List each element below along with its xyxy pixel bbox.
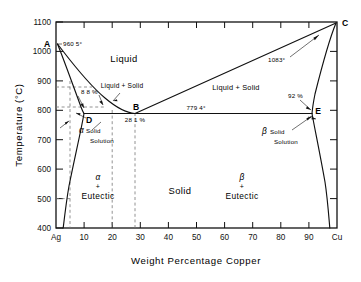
- phase-diagram-svg: 1100 1000 900 800 700 600 500 400 Ag 10 …: [0, 0, 361, 282]
- x-tick-80: 80: [276, 233, 286, 242]
- y-tick-500: 500: [37, 195, 51, 204]
- phase-diagram-figure: 1100 1000 900 800 700 600 500 400 Ag 10 …: [0, 0, 361, 282]
- leader-arrows: [58, 35, 320, 130]
- y-tick-600: 600: [37, 165, 51, 174]
- x-tick-70: 70: [248, 233, 258, 242]
- x-tick-30: 30: [136, 233, 146, 242]
- liquidus-cu-curve: [135, 23, 336, 114]
- point-label-d: D: [86, 115, 92, 125]
- ann-temp-cu: 1083°: [268, 56, 286, 63]
- solidus-ag-curve: [58, 44, 85, 114]
- arrowhead-E-mark: [312, 117, 316, 119]
- beta-solid-solution-label: β Solid Solution: [261, 126, 298, 145]
- x-tick-60: 60: [220, 233, 230, 242]
- region-label-liquid-solid-right: Liquid + Solid: [212, 83, 259, 92]
- dashed-guides: [56, 81, 135, 228]
- arrowhead-beta-ss: [306, 116, 312, 120]
- y-tick-1100: 1100: [33, 18, 51, 27]
- region-label-liquid: Liquid: [110, 53, 137, 64]
- y-tick-700: 700: [37, 136, 51, 145]
- arrowhead-alpha-ss2: [65, 121, 69, 125]
- arrowhead-1083: [313, 35, 319, 40]
- x-tick-labels: Ag 10 20 30 40 50 60 70 80 90 Cu: [51, 233, 343, 242]
- x-tick-10: 10: [80, 233, 90, 242]
- x-tick-40: 40: [164, 233, 174, 242]
- y-tick-900: 900: [37, 77, 51, 86]
- beta-eutectic-word: Eutectic: [226, 191, 259, 201]
- beta-eutectic-plus: +: [240, 183, 244, 190]
- alpha-symbol-ss: α: [79, 125, 84, 135]
- solvus-cu-curve: [312, 114, 330, 229]
- x-tick-50: 50: [192, 233, 202, 242]
- ann-temp-ag: 960 5°: [63, 40, 82, 47]
- alpha-eutectic-word: Eutectic: [82, 191, 115, 201]
- beta-symbol-ss: β: [261, 126, 267, 136]
- beta-symbol-eutectic: β: [239, 172, 245, 182]
- numeric-annotations: 960 5° 1083° 779 4° 8 8 % 28 1 % 92 %: [63, 40, 303, 123]
- beta-ss-solid: Solid: [270, 128, 285, 135]
- x-tick-90: 90: [304, 233, 314, 242]
- alpha-eutectic-plus: +: [96, 183, 100, 190]
- ann-pct-92: 92 %: [288, 92, 303, 99]
- beta-eutectic-label: β + Eutectic: [226, 172, 259, 201]
- region-label-solid: Solid: [169, 185, 192, 196]
- point-label-e: E: [315, 106, 321, 116]
- alpha-ss-solid: Solid: [86, 127, 101, 134]
- y-tick-400: 400: [37, 224, 51, 233]
- point-label-a: A: [44, 39, 50, 49]
- x-tick-ag: Ag: [51, 233, 61, 242]
- region-label-liquid-solid-left: Liquid + Solid: [101, 82, 144, 90]
- x-tick-20: 20: [108, 233, 118, 242]
- alpha-solid-solution-label: α Solid Solution: [79, 125, 114, 144]
- region-labels: Liquid Liquid + Solid Liquid + Solid Sol…: [101, 53, 260, 196]
- alpha-symbol-eutectic: α: [96, 172, 101, 182]
- arrowhead-88pct-b: [99, 100, 103, 105]
- y-axis-title: Temperature (°C): [13, 83, 24, 166]
- point-label-c: C: [342, 18, 348, 28]
- ann-temp-eutectic: 779 4°: [186, 104, 205, 111]
- x-axis-title: Weight Percentage Copper: [131, 255, 261, 266]
- y-tick-800: 800: [37, 106, 51, 115]
- arrowhead-92pct: [306, 106, 311, 110]
- solidus-cu-curve: [312, 23, 336, 114]
- beta-ss-solution: Solution: [274, 138, 298, 145]
- ann-pct-281: 28 1 %: [125, 116, 146, 123]
- alpha-ss-solution: Solution: [90, 137, 114, 144]
- y-tick-labels: 1100 1000 900 800 700 600 500 400: [33, 18, 52, 233]
- point-label-b: B: [133, 102, 139, 112]
- ann-pct-88: 8 8 %: [81, 88, 98, 95]
- alpha-eutectic-label: α + Eutectic: [82, 172, 115, 201]
- x-tick-cu: Cu: [332, 233, 343, 242]
